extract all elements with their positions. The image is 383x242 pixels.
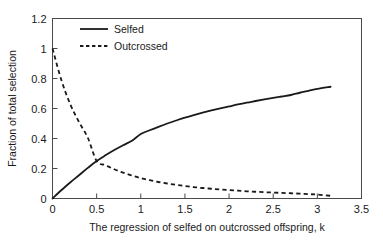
x-axis-tick-labels: 00.511.522.533.5 [49, 203, 369, 215]
legend-label-outcrossed: Outcrossed [114, 40, 168, 52]
x-tick-label: 1 [138, 203, 144, 215]
chart-figure: 00.511.522.533.5 00.20.40.60.811.2 Selfe… [0, 0, 383, 242]
x-tick-label: 3.5 [354, 203, 369, 215]
y-tick-label: 0.4 [31, 133, 46, 145]
line-chart: 00.511.522.533.5 00.20.40.60.811.2 Selfe… [0, 0, 383, 242]
x-axis-title: The regression of selfed on outcrossed o… [89, 221, 325, 233]
y-tick-label: 0 [40, 193, 46, 205]
y-axis-tick-labels: 00.20.40.60.811.2 [31, 13, 46, 205]
y-tick-label: 0.2 [31, 163, 46, 175]
x-tick-label: 2 [226, 203, 232, 215]
x-tick-label: 0.5 [89, 203, 104, 215]
y-tick-label: 1 [40, 43, 46, 55]
x-tick-label: 2.5 [266, 203, 281, 215]
x-tick-label: 0 [49, 203, 55, 215]
x-tick-label: 1.5 [177, 203, 192, 215]
y-tick-label: 0.6 [31, 103, 46, 115]
y-tick-label: 1.2 [31, 13, 46, 25]
y-axis-title: Fraction of total selection [6, 50, 18, 167]
legend-label-selfed: Selfed [114, 23, 144, 35]
x-tick-label: 3 [314, 203, 320, 215]
y-tick-label: 0.8 [31, 73, 46, 85]
